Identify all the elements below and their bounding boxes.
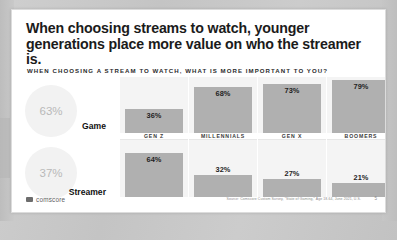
bar-game: 36% [125,109,183,133]
generation-column: 36%GEN Z64% [120,77,188,197]
chart-area: 63% 37% Game Streamer 36%GEN Z64%68%MILL… [12,77,386,197]
bar-value-game: 68% [194,89,252,98]
generation-label: GEN X [258,133,326,139]
summary-value-game: 63% [39,105,62,117]
column-divider [120,139,188,140]
bar-value-streamer: 27% [263,169,321,178]
bar-streamer: 64% [125,153,183,197]
bar-value-game: 73% [263,86,321,95]
bar-game: 68% [194,87,252,133]
page-number: 5 [374,196,377,201]
backdrop-smudge [0,118,10,178]
bar-value-streamer: 64% [125,155,183,164]
generation-column: 73%GEN X27% [258,77,326,197]
bar-game: 73% [263,84,321,133]
column-divider [189,139,257,140]
bar-value-streamer: 21% [332,173,386,182]
slide-footer: comscore Source: Comscore Custom Survey,… [12,192,386,212]
page-title: When choosing streams to watch, younger … [26,21,370,68]
bar-game: 79% [332,80,386,133]
generation-column: 79%BOOMERS21% [327,77,386,197]
generation-label: BOOMERS [327,133,386,139]
source-note: Source: Comscore Custom Survey, "State o… [227,197,361,201]
chart-subtitle: WHEN CHOOSING A STREAM TO WATCH, WHAT IS… [27,67,379,74]
bar-value-streamer: 32% [194,165,252,174]
comscore-mark-icon [26,197,33,202]
summary-value-streamer: 37% [39,167,62,179]
column-divider [327,139,386,140]
bar-value-game: 79% [332,82,386,91]
generation-column: 68%MILLENNIALS32% [189,77,257,197]
comscore-logo: comscore [26,196,65,203]
bar-value-game: 36% [125,111,183,120]
comscore-logo-text: comscore [36,196,65,203]
column-divider [258,139,326,140]
generation-label: MILLENNIALS [189,133,257,139]
row-label-game: Game [34,121,106,131]
generation-label: GEN Z [120,133,188,139]
slide-panel: When choosing streams to watch, younger … [11,9,386,213]
